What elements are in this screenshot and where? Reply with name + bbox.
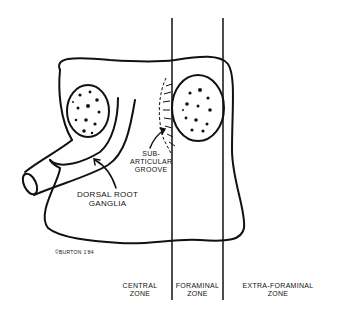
label-line: Groove	[130, 166, 172, 174]
bone-texture	[72, 88, 212, 134]
ganglia-arrow	[95, 160, 116, 188]
copyright-label: ©Burton 1'84	[55, 249, 94, 255]
nerve-root-end	[20, 171, 40, 196]
spine-cross-section-drawing	[0, 0, 349, 318]
zone-suffix: Zone	[172, 290, 223, 298]
label-line: Ganglia	[77, 199, 138, 208]
right-facet-oval	[172, 75, 224, 141]
zone-name: Central	[115, 282, 165, 290]
left-facet-oval	[67, 85, 109, 137]
sub-articular-groove-label: Sub- Articular Groove	[130, 150, 172, 174]
nerve-root-upper	[25, 140, 72, 172]
label-line: Sub-	[130, 150, 172, 158]
zone-name: Extra-Foraminal	[228, 282, 328, 290]
dorsal-root-ganglia-label: Dorsal Root Ganglia	[77, 190, 138, 208]
label-line: Dorsal Root	[77, 190, 138, 199]
zone-label-extra-foraminal: Extra-Foraminal Zone	[228, 282, 328, 298]
zone-label-central: Central Zone	[115, 282, 165, 298]
zone-suffix: Zone	[228, 290, 328, 298]
zone-suffix: Zone	[115, 290, 165, 298]
nerve-root-lower	[34, 100, 135, 195]
diagram-canvas: Sub- Articular Groove Dorsal Root Gangli…	[0, 0, 349, 318]
label-line: Articular	[130, 158, 172, 166]
zone-label-foraminal: Foraminal Zone	[172, 282, 223, 298]
zone-name: Foraminal	[172, 282, 223, 290]
